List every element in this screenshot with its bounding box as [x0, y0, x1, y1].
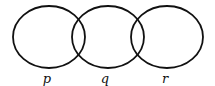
- label-r: r: [162, 72, 168, 85]
- label-p: p: [43, 72, 51, 85]
- circle-p: [13, 6, 85, 68]
- label-q: q: [101, 72, 109, 85]
- venn-diagram: p q r: [0, 0, 215, 86]
- circle-r: [131, 6, 203, 68]
- circle-q: [72, 6, 144, 68]
